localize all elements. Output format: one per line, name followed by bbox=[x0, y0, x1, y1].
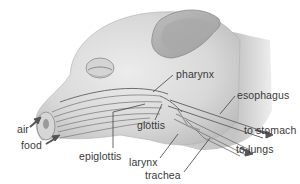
eye bbox=[86, 58, 114, 78]
diagram-canvas: pharynx esophagus glottis to stomach air… bbox=[0, 0, 300, 184]
label-epiglottis: epiglottis bbox=[79, 151, 121, 162]
label-esophagus: esophagus bbox=[237, 90, 289, 101]
label-larynx: larynx bbox=[129, 157, 158, 168]
label-to-lungs: to lungs bbox=[236, 144, 274, 155]
label-trachea: trachea bbox=[145, 170, 181, 181]
label-food: food bbox=[21, 140, 42, 151]
label-glottis: glottis bbox=[137, 120, 165, 131]
label-air: air bbox=[17, 124, 29, 135]
label-pharynx: pharynx bbox=[176, 69, 214, 80]
label-to-stomach: to stomach bbox=[244, 125, 296, 136]
